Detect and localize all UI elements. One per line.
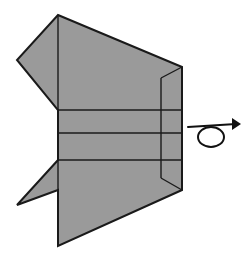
folded-paper-body [17, 15, 182, 246]
origami-diagram-canvas: Origami step diagram: flat-folded model … [0, 0, 244, 265]
turn-over-symbol [188, 118, 241, 147]
turn-over-arrowhead-icon [232, 118, 241, 130]
turn-over-loop-icon [198, 127, 224, 147]
origami-diagram-figure: Origami step diagram: flat-folded model … [0, 0, 244, 265]
right-side-flap-panel [161, 67, 182, 190]
